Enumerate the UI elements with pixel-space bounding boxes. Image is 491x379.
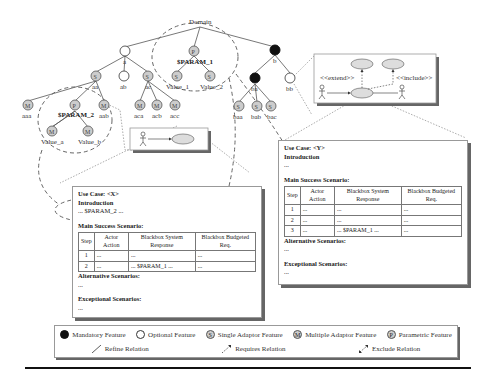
single-adaptor-icon: S xyxy=(206,330,215,339)
uc-x-title: Use Case: <X> xyxy=(78,190,256,199)
svg-text:Value_1: Value_1 xyxy=(166,83,189,91)
legend-single: S Single Adaptor Feature xyxy=(206,330,283,339)
legend-parametric: P Parametric Feature xyxy=(387,330,452,339)
exclude-relation-icon xyxy=(359,345,369,353)
parametric-feature-icon: P xyxy=(387,330,396,339)
svg-text:M: M xyxy=(85,129,91,135)
svg-text:S: S xyxy=(94,74,97,80)
svg-text:S: S xyxy=(269,104,272,110)
refine-relation-icon xyxy=(92,345,102,353)
label-ab: ab xyxy=(120,83,127,91)
svg-text:M: M xyxy=(101,103,107,109)
svg-text:M: M xyxy=(25,103,31,109)
table-row: 1 ... ... ... xyxy=(79,251,256,262)
legend-optional: Optional Feature xyxy=(136,330,195,339)
uc-y-main-label: Main Success Scenario: xyxy=(284,176,462,185)
uc-y-scenario-table: Step Actor Action Blackbox System Respon… xyxy=(284,186,462,237)
node-b-mandatory xyxy=(270,45,280,55)
label-ac: ac xyxy=(145,83,151,91)
svg-text:baa: baa xyxy=(233,113,244,121)
small-use-case-diagram xyxy=(130,128,211,153)
label-ba: ba xyxy=(251,85,259,93)
svg-text:Value_2: Value_2 xyxy=(200,83,223,91)
svg-text:Value_b: Value_b xyxy=(78,138,101,146)
svg-text:aca: aca xyxy=(134,112,144,120)
svg-text:M: M xyxy=(49,129,55,135)
svg-text:M: M xyxy=(154,103,160,109)
legend-exclude: Exclude Relation xyxy=(359,345,420,353)
uc-y-exc-label: Exceptional Scenarios: xyxy=(284,260,462,269)
use-case-y-document: Use Case: <Y> Introduction ... Main Succ… xyxy=(278,140,468,285)
svg-text:M: M xyxy=(172,103,178,109)
label-bb: bb xyxy=(286,85,294,93)
use-case-x-document: Use Case: <X> Introduction ... $PARAM_2 … xyxy=(72,186,262,318)
node-bb-optional xyxy=(285,73,295,83)
table-row: 1 ... ... ... xyxy=(285,205,462,216)
svg-text:<<include>>: <<include>> xyxy=(396,74,432,82)
legend-refine: Refine Relation xyxy=(92,345,149,353)
uc-x-scenario-table: Step Actor Action Blackbox System Respon… xyxy=(78,232,256,272)
uc-x-main-label: Main Success Scenario: xyxy=(78,222,256,231)
svg-text:Value_a: Value_a xyxy=(41,138,64,146)
label-param1: $PARAM_1 xyxy=(177,58,214,66)
uc-y-intro-label: Introduction xyxy=(284,153,462,162)
node-ab-optional xyxy=(119,71,129,81)
optional-feature-icon xyxy=(136,330,145,339)
uc-x-exc-label: Exceptional Scenarios: xyxy=(78,295,256,304)
root-label: Domain xyxy=(189,18,212,26)
uc-y-title: Use Case: <Y> xyxy=(284,144,462,153)
use-case-oval xyxy=(172,134,194,144)
multiple-adaptor-icon: M xyxy=(293,330,302,339)
uc-y-alt-label: Alternative Scenarios: xyxy=(284,237,462,246)
bottom-rule xyxy=(25,367,471,369)
legend-requires: Requires Relation xyxy=(222,345,285,353)
label-aa: aa xyxy=(92,83,99,91)
requires-relation-icon xyxy=(222,345,232,353)
svg-text:S: S xyxy=(146,74,149,80)
svg-text:S: S xyxy=(237,104,240,110)
large-use-case-diagram: <<extend>> <<include>> xyxy=(314,54,439,106)
label-b: b xyxy=(273,57,277,65)
legend-mandatory: Mandatory Feature xyxy=(60,330,125,339)
svg-text:S: S xyxy=(175,74,178,80)
svg-text:<<extend>>: <<extend>> xyxy=(320,74,355,82)
node-ba-mandatory xyxy=(250,73,260,83)
svg-text:acc: acc xyxy=(170,112,179,120)
legend-multiple: M Multiple Adaptor Feature xyxy=(293,330,376,339)
mandatory-feature-icon xyxy=(60,330,69,339)
svg-text:aab: aab xyxy=(99,112,109,120)
svg-text:S: S xyxy=(208,74,211,80)
table-row: 2 ... ... ... xyxy=(285,215,462,226)
label-a: a xyxy=(123,58,127,66)
svg-text:aaa: aaa xyxy=(22,112,32,120)
svg-text:acb: acb xyxy=(152,112,162,120)
svg-text:M: M xyxy=(137,103,143,109)
uc-x-intro-label: Introduction xyxy=(78,199,256,208)
table-row: 2 ... ... $PARAM_1 ... ... xyxy=(79,261,256,272)
svg-text:bab: bab xyxy=(251,113,262,121)
svg-text:bac: bac xyxy=(267,113,277,121)
uc-x-alt-label: Alternative Scenarios: xyxy=(78,272,256,281)
svg-text:$PARAM_2: $PARAM_2 xyxy=(58,111,95,119)
legend: Mandatory Feature Optional Feature S Sin… xyxy=(54,325,458,358)
uc-x-intro-text: ... $PARAM_2 ... xyxy=(78,207,256,216)
svg-text:S: S xyxy=(255,104,258,110)
node-a-optional xyxy=(120,46,130,56)
table-row: 3 ... ... $PARAM_1 ... ... xyxy=(285,226,462,237)
